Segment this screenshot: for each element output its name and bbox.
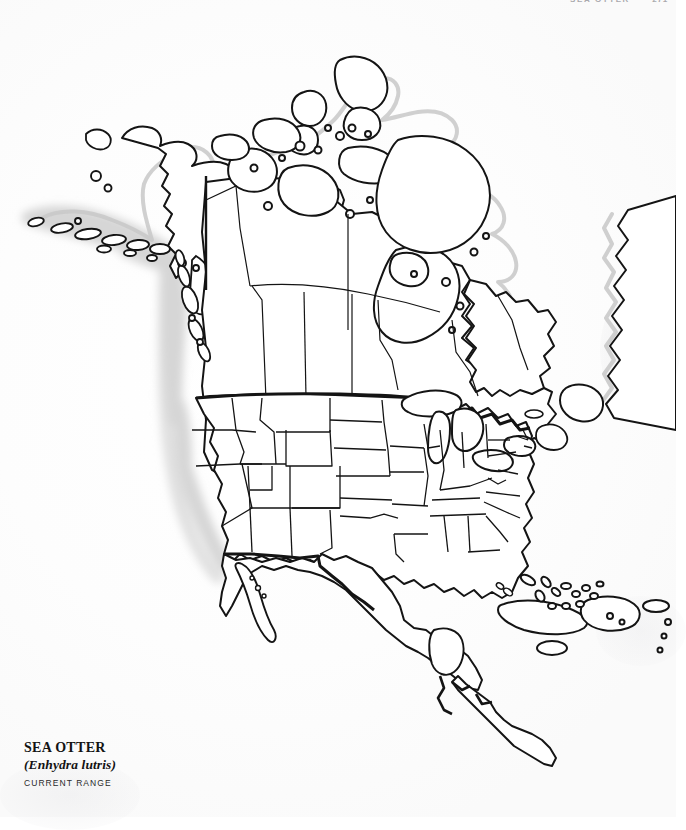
legend-range-caption: CURRENT RANGE (24, 778, 254, 788)
region-central-america (452, 676, 556, 766)
map-legend: SEA OTTER (Enhydra lutris) CURRENT RANGE (24, 740, 254, 788)
legend-scientific-name: (Enhydra lutris) (24, 757, 254, 773)
region-greenland-edge (606, 196, 676, 430)
region-caribbean (498, 573, 671, 655)
legend-common-name: SEA OTTER (24, 740, 254, 756)
